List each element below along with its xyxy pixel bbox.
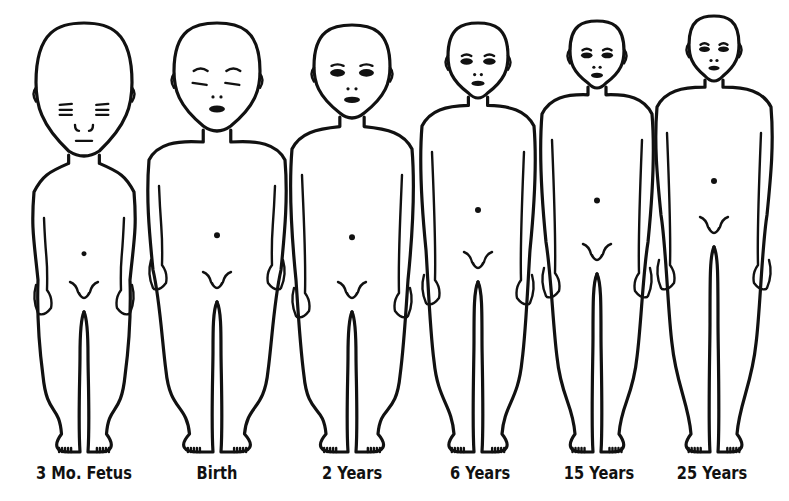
navel-icon: [82, 251, 87, 256]
caption-6-years: 6 Years: [450, 463, 510, 483]
body-right-outline: [217, 130, 286, 452]
navel-icon: [594, 197, 600, 203]
head-outline: [36, 23, 132, 156]
arm-left-outline: [297, 175, 310, 317]
caption-2-years: 2 Years: [322, 463, 382, 483]
arm-left-outline: [39, 218, 52, 314]
caption-15-years: 15 Years: [564, 463, 634, 483]
body-left-outline: [421, 97, 478, 452]
navel-icon: [711, 178, 717, 184]
figure-15-years: [541, 21, 653, 452]
body-right-outline: [84, 155, 135, 452]
body-right-outline: [597, 87, 653, 452]
groin-outline: [700, 217, 728, 233]
navel-icon: [349, 234, 355, 240]
groin-outline: [583, 244, 611, 260]
figure-birth: [148, 23, 286, 452]
arm-right-outline: [117, 218, 130, 314]
figure-2-years: [291, 25, 413, 452]
navel-icon: [475, 207, 481, 213]
groin-outline: [70, 282, 98, 298]
body-left-outline: [33, 155, 84, 452]
body-right-outline: [478, 97, 535, 452]
figures-drawing: [0, 0, 789, 501]
groin-outline: [203, 272, 231, 288]
arm-right-outline: [754, 133, 767, 289]
head-outline: [174, 23, 260, 131]
arm-left-outline: [154, 186, 167, 289]
head-outline: [570, 21, 624, 88]
figure-25-years: [656, 16, 772, 452]
caption-3-mo-fetus: 3 Mo. Fetus: [36, 463, 132, 483]
head-outline: [448, 23, 508, 98]
caption-25-years: 25 Years: [677, 463, 747, 483]
arm-left-outline: [662, 133, 675, 289]
body-left-outline: [541, 87, 597, 452]
arm-right-outline: [395, 175, 408, 317]
body-proportions-diagram: 3 Mo. Fetus Birth 2 Years 6 Years 15 Yea…: [0, 0, 789, 501]
caption-birth: Birth: [197, 463, 238, 483]
body-right-outline: [714, 80, 772, 452]
groin-outline: [464, 252, 492, 268]
head-outline: [689, 16, 739, 81]
navel-icon: [214, 232, 220, 238]
figure-6-years: [421, 23, 535, 452]
figure-3-mo-fetus: [33, 23, 135, 452]
arm-right-outline: [268, 186, 281, 289]
head-outline: [314, 25, 390, 118]
body-left-outline: [656, 80, 714, 452]
body-left-outline: [148, 130, 217, 452]
groin-outline: [338, 282, 366, 298]
